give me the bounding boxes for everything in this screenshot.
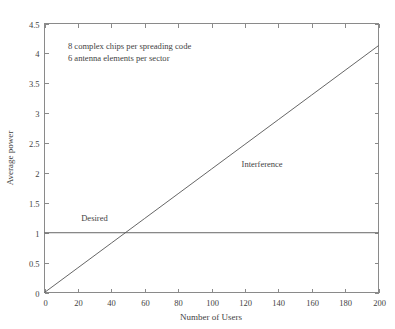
y-axis-tick-labels: 00.511.522.533.544.5 [29,20,40,299]
y-axis-title: Average power [5,131,15,186]
y-tick-label: 1 [35,229,39,239]
y-tick-label: 2.5 [29,139,40,149]
x-tick-label: 100 [206,298,219,308]
annotation-chips-per-code: 8 complex chips per spreading code [68,41,192,51]
y-tick-label: 0.5 [29,259,40,269]
y-tick-label: 2 [35,169,39,179]
chart-series-group [45,46,379,293]
x-tick-label: 180 [339,298,352,308]
annotation-antenna-elements: 6 antenna elements per sector [68,53,170,63]
x-axis-title: Number of Users [180,312,242,322]
x-tick-label: 60 [141,298,150,308]
plot-frame [45,24,379,293]
x-tick-label: 140 [272,298,285,308]
x-tick-label: 40 [107,298,116,308]
x-tick-label: 120 [239,298,252,308]
series-line-interference [45,46,379,293]
chart-figure: 020406080100120140160180200 00.511.522.5… [0,0,395,329]
y-tick-label: 3.5 [29,79,40,89]
y-tick-label: 3 [35,109,39,119]
chart-plot-svg: 020406080100120140160180200 00.511.522.5… [0,0,395,329]
y-tick-label: 4 [35,49,40,59]
series-label-interference: Interference [242,159,283,169]
x-tick-label: 20 [74,298,83,308]
y-tick-label: 4.5 [29,20,40,30]
x-tick-label: 160 [306,298,319,308]
x-axis-tick-labels: 020406080100120140160180200 [43,298,386,308]
y-tick-label: 0 [35,289,39,299]
axis-ticks [45,24,380,294]
x-tick-label: 0 [43,298,47,308]
x-tick-label: 200 [373,298,386,308]
series-label-desired: Desired [81,213,108,223]
y-tick-label: 1.5 [29,199,40,209]
x-tick-label: 80 [174,298,183,308]
